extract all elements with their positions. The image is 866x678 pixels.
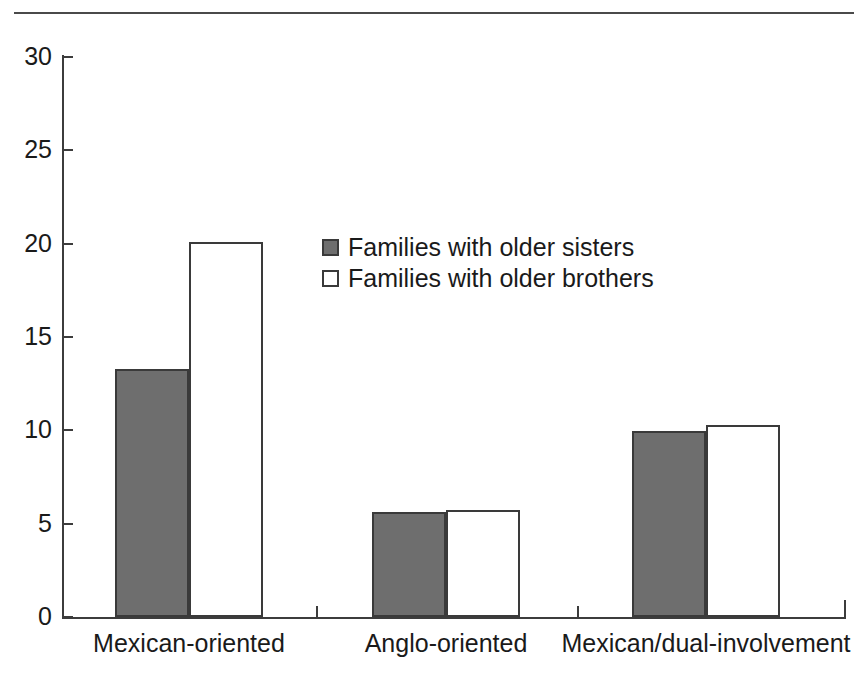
bar	[372, 512, 446, 617]
y-axis-tick-label-wrap: 10	[0, 417, 52, 442]
y-axis-tick-label: 10	[8, 417, 52, 442]
y-axis-tick	[64, 56, 73, 58]
legend-item-older-sisters: Families with older sisters	[322, 232, 654, 263]
y-axis-tick-label-wrap: 25	[0, 137, 52, 162]
bar	[446, 510, 520, 617]
x-axis-end-tick	[844, 600, 846, 617]
y-axis-tick-label-wrap: 0	[0, 604, 52, 629]
y-axis-tick	[64, 149, 73, 151]
y-axis-tick-label: 20	[8, 231, 52, 256]
y-axis-tick	[64, 523, 73, 525]
bar	[115, 369, 189, 617]
top-horizontal-rule	[14, 12, 854, 14]
y-axis-tick-label: 30	[8, 44, 52, 69]
y-axis-tick-label: 5	[8, 511, 52, 536]
legend-item-older-brothers: Families with older brothers	[322, 263, 654, 294]
y-axis-tick	[64, 243, 73, 245]
y-axis-tick-label-wrap: 5	[0, 511, 52, 536]
x-axis-tick	[316, 606, 318, 617]
chart-legend: Families with older sisters Families wit…	[322, 232, 654, 294]
hollow-square-swatch	[322, 270, 339, 287]
y-axis-tick-label-wrap: 20	[0, 231, 52, 256]
bar	[706, 425, 780, 617]
bar	[189, 242, 263, 617]
legend-label-older-brothers: Families with older brothers	[348, 265, 654, 292]
bar-chart-figure: 051015202530 Mexican-orientedAnglo-orien…	[0, 0, 866, 678]
y-axis-tick-label: 15	[8, 324, 52, 349]
bar	[632, 431, 706, 617]
y-axis-tick	[64, 429, 73, 431]
y-axis-tick-label: 25	[8, 137, 52, 162]
legend-label-older-sisters: Families with older sisters	[348, 234, 634, 261]
filled-square-swatch	[322, 239, 339, 256]
y-axis-tick-label-wrap: 30	[0, 44, 52, 69]
y-axis-tick	[64, 336, 73, 338]
x-axis-tick	[577, 606, 579, 617]
x-axis-category-label: Mexican/dual-involvement	[506, 628, 866, 658]
y-axis-tick	[64, 616, 73, 618]
x-axis-line	[62, 617, 846, 619]
y-axis-tick-label-wrap: 15	[0, 324, 52, 349]
y-axis-tick-label: 0	[8, 604, 52, 629]
